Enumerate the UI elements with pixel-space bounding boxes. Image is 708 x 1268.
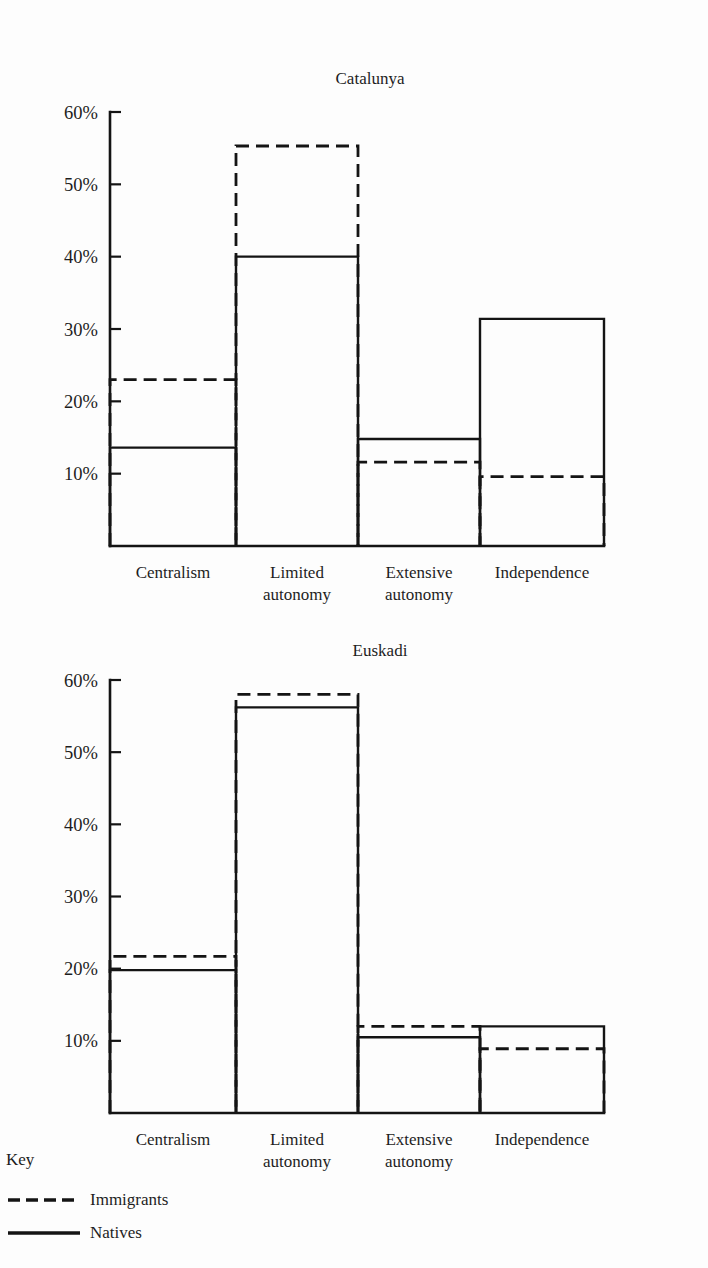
y-tick-label: 50% — [64, 743, 98, 763]
y-tick-label: 60% — [64, 671, 98, 691]
category-label: autonomy — [263, 585, 331, 604]
category-label: autonomy — [385, 585, 453, 604]
y-tick-label: 30% — [64, 887, 98, 907]
chart-title-catalunya: Catalunya — [336, 69, 405, 88]
category-label: Independence — [495, 1130, 589, 1149]
y-tick-label: 10% — [64, 464, 98, 484]
y-tick-label: 50% — [64, 175, 98, 195]
category-label: Limited — [270, 1130, 324, 1149]
category-label: Centralism — [136, 1130, 211, 1149]
key-label-natives: Natives — [90, 1223, 142, 1242]
chart-canvas: Catalunya 10%20%30%40%50%60% CentralismL… — [0, 0, 708, 1268]
key-label-immigrants: Immigrants — [90, 1190, 168, 1209]
y-tick-label: 30% — [64, 320, 98, 340]
category-label: Extensive — [385, 563, 452, 582]
category-label: Limited — [270, 563, 324, 582]
y-tick-label: 20% — [64, 959, 98, 979]
y-tick-label: 60% — [64, 103, 98, 123]
canvas-background — [0, 0, 708, 1268]
y-tick-label: 40% — [64, 247, 98, 267]
chart-title-euskadi: Euskadi — [353, 641, 408, 660]
figure-root: Catalunya 10%20%30%40%50%60% CentralismL… — [0, 0, 708, 1268]
y-tick-label: 40% — [64, 815, 98, 835]
category-label: Centralism — [136, 563, 211, 582]
category-label: autonomy — [263, 1152, 331, 1171]
category-label: autonomy — [385, 1152, 453, 1171]
key-heading: Key — [6, 1150, 35, 1169]
y-tick-label: 20% — [64, 392, 98, 412]
category-label: Independence — [495, 563, 589, 582]
category-label: Extensive — [385, 1130, 452, 1149]
y-tick-label: 10% — [64, 1031, 98, 1051]
